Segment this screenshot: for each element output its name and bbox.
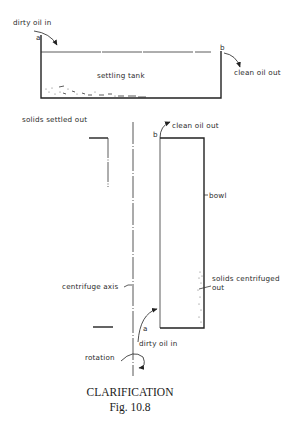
bowl-point-b: b	[153, 130, 158, 139]
solids-centrifuged-label-line2: out	[212, 283, 224, 292]
outlet-arrow-icon	[224, 53, 240, 67]
tank-point-a: a	[36, 33, 41, 42]
bowl-inlet-label: dirty oil in	[139, 339, 178, 348]
bowl-walls	[160, 138, 204, 328]
axis-label: centrifuge axis	[62, 282, 119, 291]
clarification-diagram: dirty oil in a b clean oil out settling …	[0, 0, 299, 430]
caption-figure: Fig. 10.8	[109, 401, 150, 414]
centrifuge: solids settled out b clean oil out bowl …	[22, 115, 280, 376]
tank-inlet-label: dirty oil in	[13, 18, 52, 27]
axis-leader	[124, 285, 132, 287]
solids-settled-label: solids settled out	[22, 115, 87, 124]
settling-tank: dirty oil in a b clean oil out settling …	[13, 18, 281, 98]
tank-label: settling tank	[97, 71, 145, 80]
sediment	[46, 86, 147, 97]
bowl-label: bowl	[209, 191, 227, 200]
rotation-label: rotation	[85, 353, 115, 362]
caption-title: CLARIFICATION	[87, 386, 175, 398]
bowl-outlet-arrow-icon	[160, 122, 170, 138]
solids-leader	[199, 286, 211, 289]
tank-outlet-label: clean oil out	[234, 68, 281, 77]
bowl-outlet-label: clean oil out	[172, 121, 219, 130]
centrifuged-solids	[198, 272, 203, 323]
solids-centrifuged-label: solids centrifuged	[212, 274, 280, 283]
tank-point-b: b	[220, 43, 225, 52]
bowl-point-a: a	[143, 324, 148, 333]
